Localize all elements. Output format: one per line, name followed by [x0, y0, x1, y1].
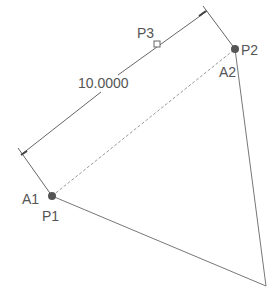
- dimension-line-upper[interactable]: [118, 11, 207, 75]
- edge-p2-bottom[interactable]: [235, 49, 266, 286]
- a2-label: A2: [219, 64, 236, 80]
- p2-label: P2: [241, 42, 258, 58]
- p1-label: P1: [42, 208, 59, 224]
- dimension-value[interactable]: 10.0000: [78, 75, 129, 91]
- a1-label: A1: [22, 191, 39, 207]
- p2-point-icon[interactable]: [231, 45, 239, 53]
- p3-marker-icon[interactable]: [154, 41, 160, 47]
- p1-point-icon[interactable]: [48, 192, 56, 200]
- p3-label: P3: [137, 25, 154, 41]
- edge-p1-bottom[interactable]: [52, 196, 266, 286]
- sketch-canvas[interactable]: 10.0000 P3 P2 A2 A1 P1: [0, 0, 274, 296]
- edge-p1-p2-dashed[interactable]: [52, 49, 235, 196]
- dimension-arrow-right: [199, 11, 206, 16]
- extension-line-right: [203, 6, 235, 49]
- extension-line-left: [18, 148, 52, 196]
- dimension-line-lower[interactable]: [22, 92, 101, 154]
